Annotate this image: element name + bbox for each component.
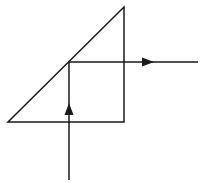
light-ray bbox=[69, 62, 198, 180]
prism-triangle bbox=[8, 7, 124, 122]
arrow-right-icon bbox=[142, 58, 154, 67]
prism-diagram bbox=[0, 0, 207, 183]
arrow-up-icon bbox=[65, 103, 74, 115]
